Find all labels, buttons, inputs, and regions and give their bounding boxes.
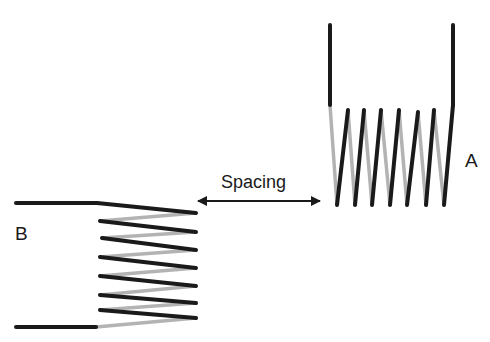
coil-b <box>16 203 196 327</box>
spacing-label: Spacing <box>221 172 286 193</box>
diagram-canvas <box>0 0 490 342</box>
coil-a <box>330 25 453 205</box>
coil-a-front-wire <box>330 25 453 205</box>
coil-a-label: A <box>465 150 478 172</box>
coil-b-label: B <box>15 223 28 245</box>
